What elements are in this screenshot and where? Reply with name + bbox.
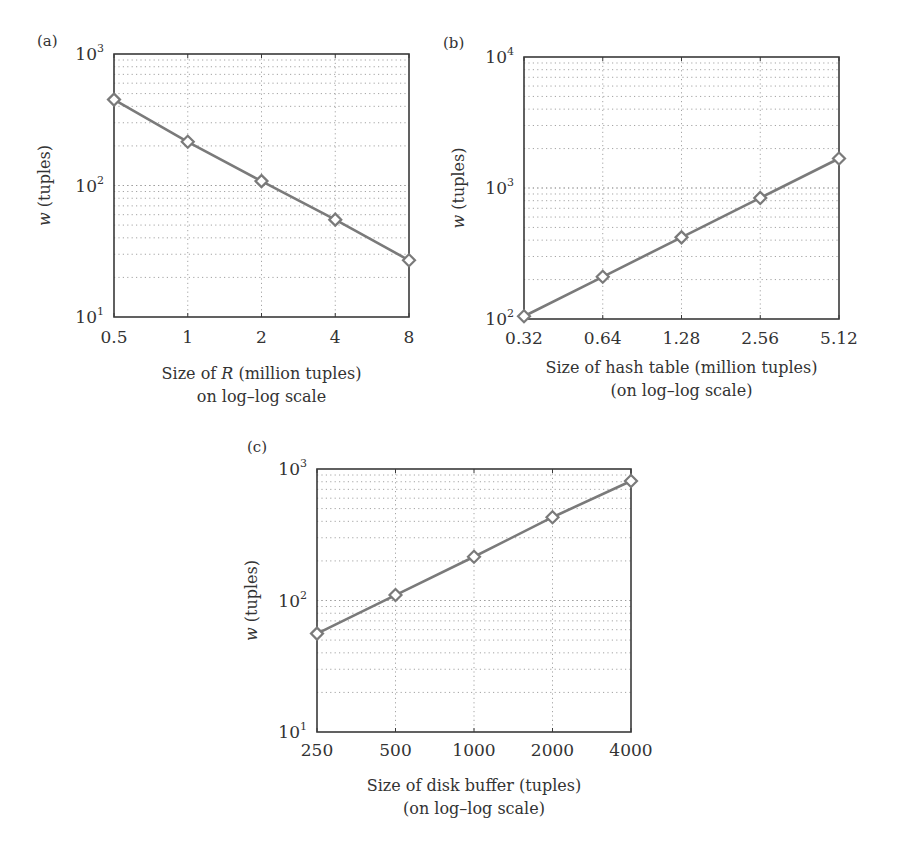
diamond-marker-icon (754, 192, 766, 204)
x-tick-label: 0.5 (100, 327, 127, 347)
diamond-marker-icon (329, 214, 341, 226)
x-tick-label: 1000 (452, 740, 495, 760)
diamond-marker-icon (518, 310, 530, 322)
plot-frame (317, 469, 631, 732)
x-tick-label: 8 (404, 327, 415, 347)
x-tick-label: 1 (182, 327, 193, 347)
diamond-marker-icon (182, 136, 194, 148)
y-tick-label: 104 (485, 45, 514, 67)
y-tick-label: 101 (75, 305, 104, 327)
diamond-marker-icon (676, 231, 688, 243)
y-tick-label: 103 (75, 42, 104, 64)
figure: (a) 0.51248101102103w (tuples)Size of R … (0, 0, 898, 852)
grid (524, 57, 839, 319)
x-axis-label-line2: on log–log scale (197, 387, 326, 406)
chart-a: (a) 0.51248101102103w (tuples)Size of R … (35, 32, 415, 406)
panel-label-c: (c) (247, 438, 267, 456)
diamond-marker-icon (390, 589, 402, 601)
plot-frame (524, 57, 839, 319)
x-axis-label-line2: (on log–log scale) (403, 799, 545, 818)
diamond-marker-icon (597, 271, 609, 283)
x-tick-label: 5.12 (820, 328, 858, 348)
y-tick-label: 102 (278, 589, 307, 611)
x-tick-label: 2.56 (741, 328, 779, 348)
x-axis-label: Size of hash table (million tuples) (546, 358, 818, 377)
x-tick-label: 500 (379, 740, 411, 760)
y-tick-label: 103 (278, 457, 307, 479)
diamond-marker-icon (311, 628, 323, 640)
x-tick-label: 2000 (531, 740, 574, 760)
x-tick-label: 0.64 (584, 328, 622, 348)
y-axis-label: w (tuples) (35, 145, 54, 226)
y-tick-label: 103 (485, 176, 514, 198)
y-tick-label: 101 (278, 720, 307, 742)
diamond-marker-icon (108, 94, 120, 106)
diamond-marker-icon (625, 475, 637, 487)
grid (317, 469, 631, 732)
x-tick-label: 2 (256, 327, 267, 347)
diamond-marker-icon (256, 175, 268, 187)
panel-label-b: (b) (443, 34, 464, 52)
chart-c: (c) 250500100020004000101102103w (tuples… (242, 438, 653, 818)
y-tick-label: 102 (75, 174, 104, 196)
diamond-marker-icon (547, 511, 559, 523)
diamond-marker-icon (468, 551, 480, 563)
diamond-marker-icon (403, 254, 415, 266)
x-axis-label: Size of disk buffer (tuples) (367, 776, 581, 795)
x-tick-label: 250 (301, 740, 333, 760)
diamond-marker-icon (833, 152, 845, 164)
x-axis-label: Size of R (million tuples) (162, 364, 362, 383)
y-axis-label: w (tuples) (449, 147, 468, 228)
x-tick-label: 4 (330, 327, 341, 347)
y-axis-label: w (tuples) (242, 560, 261, 641)
panel-label-a: (a) (37, 32, 58, 50)
x-tick-label: 1.28 (663, 328, 701, 348)
chart-b: (b) 0.320.641.282.565.12102103104w (tupl… (443, 34, 858, 400)
x-tick-label: 4000 (609, 740, 652, 760)
y-tick-label: 102 (485, 307, 514, 329)
x-axis-label-line2: (on log–log scale) (611, 381, 753, 400)
x-tick-label: 0.32 (505, 328, 543, 348)
